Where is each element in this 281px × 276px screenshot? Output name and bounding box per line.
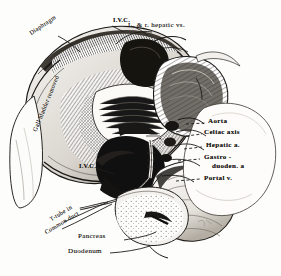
- label-portal-vein: Portal v.: [204, 175, 232, 182]
- label-duodenum: Duodenum: [68, 248, 102, 255]
- label-hepatic-artery: Hepatic a.: [206, 142, 240, 149]
- label-hepatic-veins: L. & r. hepatic vs.: [128, 22, 185, 29]
- illustration-artwork: [0, 0, 281, 276]
- label-gastroduodenal-artery-line1: Gastro -: [204, 154, 231, 161]
- label-aorta: Aorta: [208, 118, 227, 125]
- label-ivc-mid: I.V.C.: [79, 163, 96, 170]
- label-celiac-axis: Celiac axis: [204, 129, 240, 136]
- anatomical-illustration-figure: Diaphragm I.V.C. L. & r. hepatic vs. Gal…: [0, 0, 281, 276]
- label-pancreas: Pancreas: [78, 233, 106, 240]
- label-gastroduodenal-artery-line2: duoden. a: [212, 163, 244, 170]
